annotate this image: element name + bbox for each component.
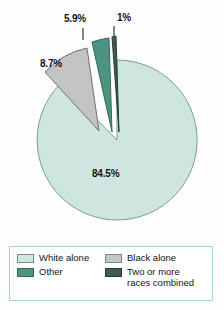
- legend-label-two-or-more: Two or moreraces combined: [127, 266, 194, 288]
- legend-label-two-or-more-line1: Two or more: [127, 266, 180, 277]
- legend-label-two-or-more-line2: races combined: [127, 277, 194, 288]
- legend-item-white-alone[interactable]: White alone: [17, 252, 105, 263]
- chart-area: 84.5% 8.7% 5.9% 1%: [0, 0, 224, 240]
- legend-item-two-or-more[interactable]: Two or moreraces combined: [105, 266, 209, 288]
- legend-swatch-two-or-more: [105, 268, 122, 277]
- legend-label-other: Other: [39, 266, 63, 277]
- slice-value-other: 5.9%: [64, 13, 86, 24]
- pie-chart-svg: [0, 0, 224, 240]
- legend-swatch-white-alone: [17, 254, 34, 263]
- legend-label-white-alone: White alone: [39, 252, 89, 263]
- pie-chart-figure: 84.5% 8.7% 5.9% 1% White alone Black alo…: [0, 0, 224, 310]
- pie-slice-two-or-more[interactable]: [112, 36, 119, 132]
- legend-swatch-black-alone: [105, 254, 122, 263]
- chart-legend: White alone Black alone Other Two or mor…: [9, 246, 213, 301]
- legend-swatch-other: [17, 268, 34, 277]
- legend-label-black-alone: Black alone: [127, 252, 176, 263]
- legend-item-black-alone[interactable]: Black alone: [105, 252, 209, 263]
- slice-value-white-alone: 84.5%: [92, 168, 119, 179]
- slice-value-two-or-more: 1%: [117, 12, 131, 23]
- slice-value-black-alone: 8.7%: [40, 58, 62, 69]
- legend-item-other[interactable]: Other: [17, 266, 105, 288]
